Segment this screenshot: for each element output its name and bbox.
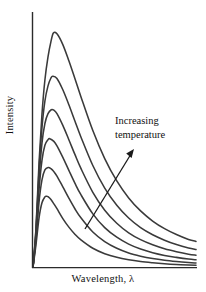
increasing-temperature-annotation: Increasing temperature bbox=[115, 114, 203, 141]
arrow-head bbox=[126, 149, 134, 158]
curve-2 bbox=[33, 167, 196, 267]
annotation-line-1: Increasing bbox=[115, 114, 203, 128]
curve-5 bbox=[33, 76, 196, 267]
curves-group bbox=[33, 32, 196, 267]
plot-area bbox=[0, 0, 206, 292]
curve-6 bbox=[33, 32, 196, 267]
y-axis-label-wrapper: Intensity bbox=[1, 72, 19, 158]
blackbody-radiation-chart: Intensity Wavelength, λ Increasing tempe… bbox=[0, 0, 206, 292]
y-axis-label: Intensity bbox=[1, 72, 19, 158]
x-axis-label: Wavelength, λ bbox=[0, 273, 206, 284]
annotation-line-2: temperature bbox=[115, 128, 203, 142]
